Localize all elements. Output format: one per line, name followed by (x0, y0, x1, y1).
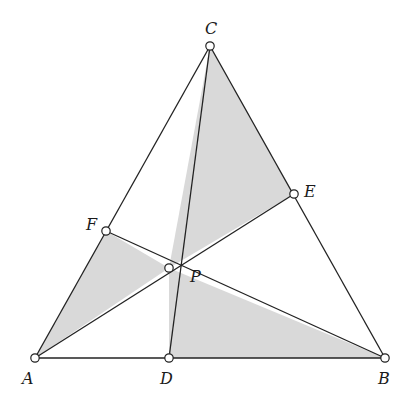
triangle-cevians-figure: ABCDEFP (0, 0, 413, 412)
shaded-triangle-cpe (169, 46, 294, 268)
label-f: F (85, 215, 98, 234)
point-a (31, 354, 39, 362)
point-f (102, 227, 110, 235)
label-a: A (20, 369, 34, 388)
point-d (165, 354, 173, 362)
point-b (381, 354, 389, 362)
point-p (165, 264, 173, 272)
label-c: C (205, 19, 217, 38)
point-e (290, 190, 298, 198)
label-p: P (189, 267, 201, 286)
point-c (206, 42, 214, 50)
geometry-diagram: ABCDEFP (0, 0, 413, 412)
shaded-triangle-pdb (169, 268, 385, 358)
label-b: B (377, 369, 390, 388)
label-d: D (159, 369, 173, 388)
shaded-regions (35, 46, 385, 358)
label-e: E (303, 182, 316, 201)
